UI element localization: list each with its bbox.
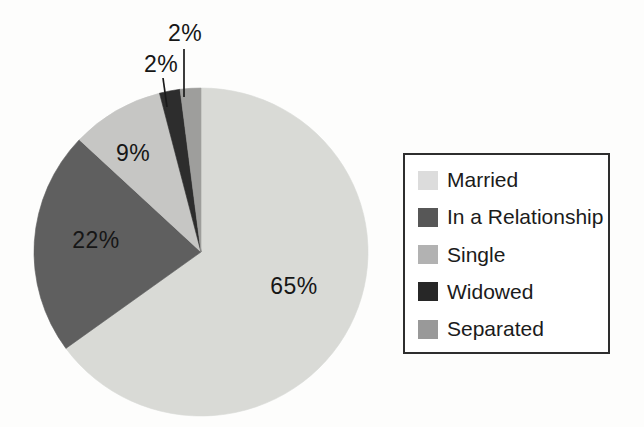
legend-item-married: Married — [418, 170, 598, 190]
pct-label-married: 65% — [270, 273, 318, 299]
legend-item-widowed: Widowed — [418, 282, 598, 302]
legend-label-widowed: Widowed — [447, 282, 533, 302]
legend-swatch-widowed — [418, 282, 438, 301]
legend-item-in-a-relationship: In a Relationship — [418, 207, 598, 227]
legend-swatch-in-a-relationship — [418, 208, 438, 227]
chart-legend: MarriedIn a RelationshipSingleWidowedSep… — [403, 153, 610, 354]
legend-label-in-a-relationship: In a Relationship — [447, 207, 603, 227]
pct-label-in-a-relationship: 22% — [72, 227, 120, 253]
pie-chart-figure: 65%22%9%2%2% MarriedIn a RelationshipSin… — [0, 0, 644, 427]
legend-swatch-married — [418, 171, 438, 190]
legend-label-married: Married — [447, 170, 518, 190]
pct-label-single: 9% — [116, 140, 150, 166]
legend-swatch-separated — [418, 320, 438, 339]
pct-label-separated: 2% — [168, 20, 202, 46]
pct-label-widowed: 2% — [144, 51, 178, 77]
legend-label-separated: Separated — [447, 319, 544, 339]
legend-label-single: Single — [447, 245, 505, 265]
legend-swatch-single — [418, 245, 438, 264]
legend-item-separated: Separated — [418, 319, 598, 339]
legend-item-single: Single — [418, 245, 598, 265]
